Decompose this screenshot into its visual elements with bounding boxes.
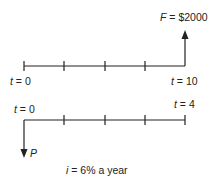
future-value-label: F = $2000 xyxy=(160,12,208,23)
present-value-label: P xyxy=(30,148,37,159)
bottom-start-label: t = 0 xyxy=(14,104,35,115)
arrow-down-icon xyxy=(21,149,28,158)
top-end-label: t = 10 xyxy=(171,76,198,87)
arrow-up-icon xyxy=(182,30,189,39)
interest-rate-label: i = 6% a year xyxy=(66,165,128,176)
bottom-end-label: t = 4 xyxy=(174,99,195,110)
top-start-label: t = 0 xyxy=(10,76,31,87)
